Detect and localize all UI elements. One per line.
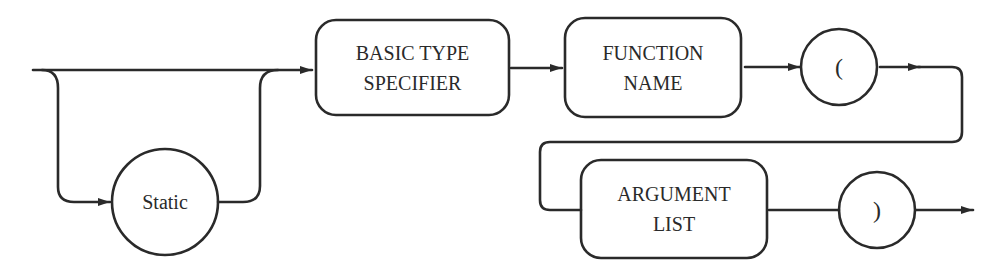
basic-type-line-1: BASIC TYPE <box>356 38 470 68</box>
function-name-label: FUNCTION NAME <box>565 18 741 117</box>
close-paren-label: ) <box>839 195 915 225</box>
argument-list-label: ARGUMENT LIST <box>581 160 767 258</box>
open-paren-label: ( <box>801 52 877 82</box>
basic-type-label: BASIC TYPE SPECIFIER <box>316 20 509 115</box>
basic-type-line-2: SPECIFIER <box>364 68 462 98</box>
static-text: Static <box>142 187 188 217</box>
static-branch-out <box>218 70 278 202</box>
close-paren-text: ) <box>873 195 881 225</box>
static-branch-in <box>42 70 110 202</box>
static-label: Static <box>112 187 218 217</box>
argument-list-line-2: LIST <box>653 209 695 239</box>
argument-list-line-1: ARGUMENT <box>617 179 730 209</box>
open-paren-text: ( <box>835 52 843 82</box>
function-name-line-1: FUNCTION <box>602 38 703 68</box>
function-name-line-2: NAME <box>624 68 683 98</box>
